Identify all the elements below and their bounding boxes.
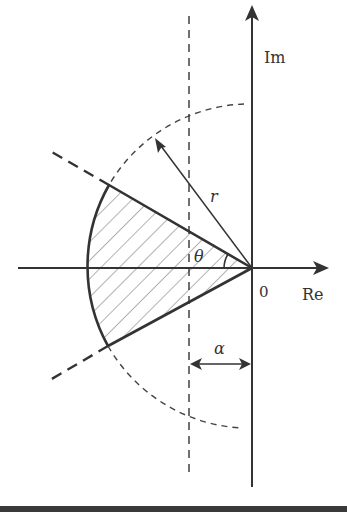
alpha-offset-arrow [190,358,251,370]
dashed-ray-lower [50,346,108,380]
dashed-ray-upper [50,151,109,185]
angle-label: θ [194,247,204,266]
radius-label: r [210,187,219,206]
imag-axis-label: Im [264,48,286,67]
dashed-circle-arc-upper [109,104,244,185]
real-axis-label: Re [302,285,324,304]
dashed-circle-arc-lower [108,346,242,428]
origin-label: 0 [259,283,269,301]
diagram-canvas: Im Re 0 r θ α [0,0,347,512]
imaginary-axis [245,5,259,487]
complex-plane-diagram: Im Re 0 r θ α [0,0,347,512]
bottom-border-bar [0,506,347,512]
alpha-label: α [214,339,225,358]
hatched-sector-region [88,185,252,346]
